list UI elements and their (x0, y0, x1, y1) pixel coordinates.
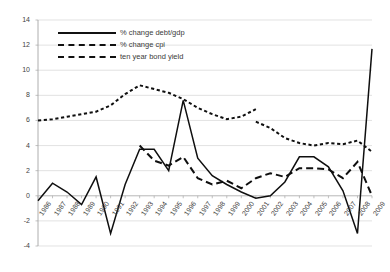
legend-label-bond-yield: ten year bond yield (120, 51, 183, 62)
y-tick-label: 10 (4, 66, 30, 73)
legend-swatch-dashed-icon (58, 44, 116, 46)
y-tick-label: 4 (4, 142, 30, 149)
legend-item-bond-yield: ten year bond yield (58, 51, 190, 63)
y-tick-label: 8 (4, 91, 30, 98)
chart-container: 14121086420-2-4 198619871988198919901991… (0, 0, 390, 272)
y-tick-label: 0 (4, 192, 30, 199)
legend-item-debt-gdp: % change debt/gdp (58, 27, 190, 39)
legend-item-cpi: % change cpi (58, 39, 190, 51)
legend-swatch-solid-icon (58, 32, 116, 34)
y-tick-label: -2 (4, 217, 30, 224)
legend-swatch-dotted-icon (58, 56, 116, 58)
y-tick-label: 12 (4, 41, 30, 48)
y-tick-label: 2 (4, 167, 30, 174)
y-tick-label: 14 (4, 16, 30, 23)
y-tick-label: -4 (4, 242, 30, 249)
chart-legend: % change debt/gdp % change cpi ten year … (58, 27, 190, 63)
y-tick-label: 6 (4, 116, 30, 123)
legend-label-debt-gdp: % change debt/gdp (120, 27, 185, 38)
legend-label-cpi: % change cpi (120, 39, 165, 50)
